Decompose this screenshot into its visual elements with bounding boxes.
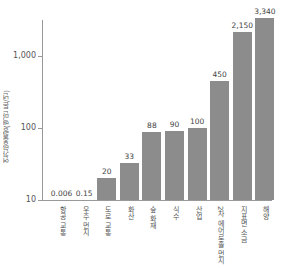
category-label: 2차 에어로졸 먼지: [215, 206, 224, 264]
value-label: 100: [182, 117, 212, 126]
value-label: 33: [114, 152, 144, 161]
x-axis: [42, 200, 272, 201]
category-label: 숲 화재: [147, 206, 156, 229]
y-tick-label: 1,000: [2, 51, 36, 60]
bar: [188, 128, 207, 200]
bar: [165, 131, 184, 200]
y-axis: [42, 20, 43, 201]
y-tick: [38, 200, 42, 201]
value-label: 0.15: [69, 189, 99, 198]
category-label: 산업: [193, 206, 202, 220]
bar: [120, 163, 139, 200]
value-label: 3,340: [250, 7, 280, 16]
category-label: 우주 먼지: [80, 206, 89, 236]
bar: [97, 178, 116, 200]
category-label: 화산: [125, 206, 134, 220]
bar: [210, 81, 229, 200]
category-label: 도로 교통: [102, 206, 111, 236]
category-label: 해양: [260, 206, 269, 220]
bar: [142, 132, 161, 200]
value-label: 450: [205, 70, 235, 79]
category-label: 항공 교통: [57, 206, 66, 236]
bar: [255, 18, 274, 200]
y-tick-label: 10: [2, 195, 36, 204]
category-label: 지표면 소금: [238, 206, 247, 243]
value-label: 20: [92, 167, 122, 176]
y-tick: [38, 128, 42, 129]
y-tick-label: 100: [2, 123, 36, 132]
bar: [233, 32, 252, 200]
y-tick: [38, 56, 42, 57]
value-label: 2,150: [227, 21, 257, 30]
category-label: 식수: [170, 206, 179, 220]
